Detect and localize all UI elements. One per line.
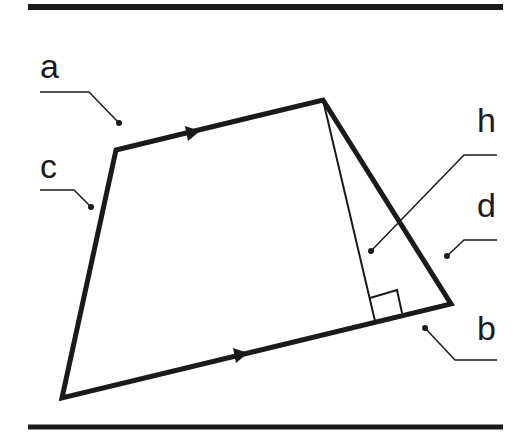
trapezoid-diagram: a c h d b xyxy=(0,0,529,446)
label-b: b xyxy=(477,309,496,347)
leader-a-dot xyxy=(116,120,122,126)
leader-a xyxy=(40,92,119,123)
label-d: d xyxy=(477,186,496,224)
leader-b-dot xyxy=(422,325,428,331)
label-a: a xyxy=(40,47,59,85)
trapezoid-shape xyxy=(62,100,451,398)
label-h: h xyxy=(477,101,496,139)
leader-c-dot xyxy=(88,204,94,210)
leader-c xyxy=(40,190,91,207)
right-angle-marker xyxy=(370,290,402,313)
leader-d-dot xyxy=(444,253,450,259)
height-line xyxy=(323,100,375,321)
label-c: c xyxy=(40,147,57,185)
leader-d xyxy=(447,240,497,256)
leader-h-dot xyxy=(368,248,374,254)
